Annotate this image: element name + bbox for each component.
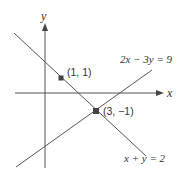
point-1-1 <box>59 76 64 81</box>
x-axis-label: x <box>167 87 172 99</box>
point-label-1-1: (1, 1) <box>67 67 92 78</box>
y-axis-label: y <box>41 10 46 22</box>
y-axis-arrow-icon <box>42 23 48 31</box>
x-axis-arrow-icon <box>156 90 164 96</box>
point-label-3-neg1: (3, −1) <box>103 106 134 117</box>
line-x-plus-y-eq-2 <box>14 33 146 156</box>
equation-label-x-plus-y: x + y = 2 <box>124 153 165 164</box>
point-3-neg1 <box>93 108 99 114</box>
equation-label-2x-3y: 2x − 3y = 9 <box>120 54 172 65</box>
graph-figure: y x (1, 1) (3, −1) 2x − 3y = 9 x + y = 2 <box>0 0 189 179</box>
